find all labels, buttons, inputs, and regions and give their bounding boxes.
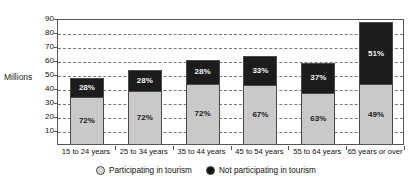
gridline: [58, 104, 403, 105]
dark-circle-icon: [206, 166, 215, 175]
plot-area: 28%72%28%72%28%72%33%67%37%63%51%49%: [57, 19, 404, 145]
bar-segment-participating[interactable]: 72%: [128, 91, 162, 144]
light-circle-icon: [96, 166, 105, 175]
x-axis-category-label: 15 to 24 years: [57, 147, 115, 157]
bar-segment-not-participating[interactable]: 28%: [186, 60, 220, 84]
chart-legend: Participating in tourismNot participatin…: [0, 166, 412, 175]
bar-column[interactable]: 37%63%: [301, 63, 335, 144]
y-axis-tick-label: 60: [38, 57, 54, 65]
x-axis-separator-tick: [115, 146, 116, 150]
gridline: [58, 90, 403, 91]
bar-column[interactable]: 28%72%: [70, 78, 104, 144]
x-axis-category-label: 25 to 34 years: [115, 147, 173, 157]
x-axis-separator-tick: [231, 146, 232, 150]
bar-segment-label: 28%: [79, 84, 95, 92]
bar-column[interactable]: 28%72%: [186, 60, 220, 144]
x-axis-category-labels: 15 to 24 years25 to 34 years35 to 44 yea…: [57, 147, 404, 161]
bar-segment-label: 67%: [252, 111, 268, 119]
gridline: [58, 132, 403, 133]
gridline: [58, 48, 403, 49]
x-axis-separator-tick: [346, 146, 347, 150]
bar-segment-participating[interactable]: 63%: [301, 93, 335, 144]
bar-segment-not-participating[interactable]: 51%: [359, 22, 393, 84]
gridline: [58, 62, 403, 63]
bar-segment-label: 28%: [195, 68, 211, 76]
y-axis-tick-label: 40: [38, 85, 54, 93]
bar-segment-not-participating[interactable]: 33%: [243, 56, 277, 85]
y-axis-tick-label: 70: [38, 43, 54, 51]
y-axis-tick-label: 90: [38, 15, 54, 23]
x-axis-separator-tick: [288, 146, 289, 150]
bar-segment-label: 72%: [195, 110, 211, 118]
bar-segment-label: 63%: [310, 115, 326, 123]
legend-label: Participating in tourism: [109, 166, 192, 175]
stacked-bar-chart: Millions 102030405060708090 28%72%28%72%…: [0, 0, 412, 185]
bar-segment-participating[interactable]: 72%: [70, 97, 104, 144]
x-axis-category-label: 55 to 64 years: [288, 147, 346, 157]
bar-segment-participating[interactable]: 72%: [186, 84, 220, 144]
bar-segment-participating[interactable]: 67%: [243, 85, 277, 144]
bar-column[interactable]: 51%49%: [359, 22, 393, 144]
bar-column[interactable]: 28%72%: [128, 70, 162, 144]
x-axis-separator-tick: [404, 146, 405, 150]
legend-item[interactable]: Not participating in tourism: [206, 166, 316, 175]
y-axis-tick-label: 80: [38, 29, 54, 37]
gridline: [58, 76, 403, 77]
bar-segment-not-participating[interactable]: 37%: [301, 63, 335, 93]
y-axis-tick-labels: 102030405060708090: [36, 19, 54, 145]
bar-segment-participating[interactable]: 49%: [359, 84, 393, 144]
y-axis-tick-label: 50: [38, 71, 54, 79]
bar-segment-label: 51%: [368, 50, 384, 58]
bar-segment-label: 49%: [368, 111, 384, 119]
bar-segment-label: 37%: [310, 74, 326, 82]
y-axis-tick-label: 20: [38, 113, 54, 121]
bar-column[interactable]: 33%67%: [243, 56, 277, 144]
legend-item[interactable]: Participating in tourism: [96, 166, 192, 175]
bar-segment-label: 33%: [252, 67, 268, 75]
gridline: [58, 118, 403, 119]
gridline: [58, 34, 403, 35]
x-axis-separator-tick: [173, 146, 174, 150]
bar-segment-label: 72%: [79, 117, 95, 125]
x-axis-category-label: 35 to 44 years: [173, 147, 231, 157]
bar-segment-label: 72%: [137, 114, 153, 122]
legend-label: Not participating in tourism: [219, 166, 316, 175]
bar-segment-not-participating[interactable]: 28%: [70, 78, 104, 96]
x-axis-category-label: 65 years or over: [346, 147, 404, 157]
bar-segment-not-participating[interactable]: 28%: [128, 70, 162, 91]
bar-segment-label: 28%: [137, 77, 153, 85]
x-axis-category-label: 45 to 54 years: [231, 147, 289, 157]
y-axis-tick-label: 10: [38, 127, 54, 135]
y-axis-tick-label: 30: [38, 99, 54, 107]
